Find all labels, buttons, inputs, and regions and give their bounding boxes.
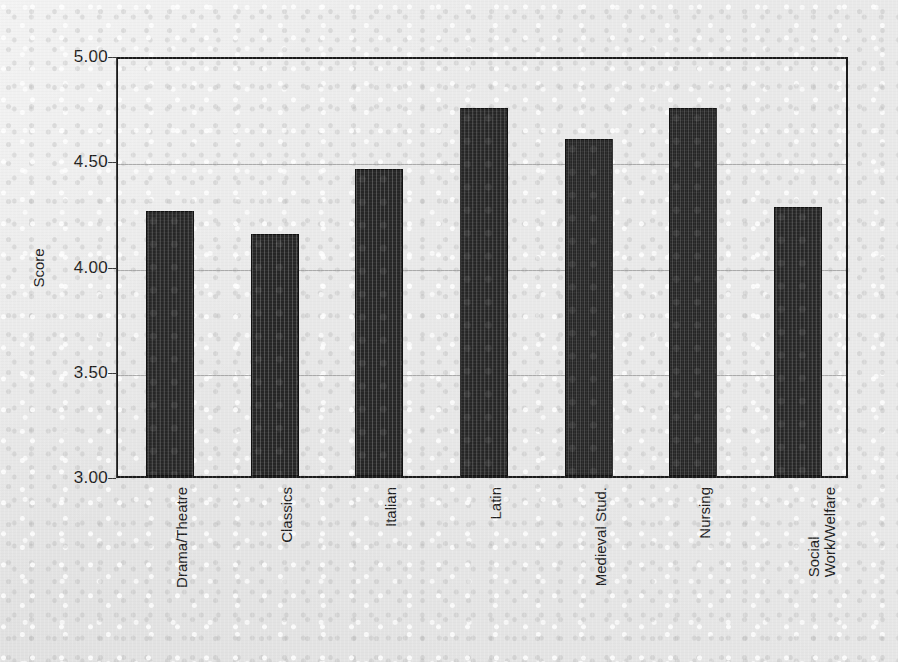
x-axis-tick-label: Medieval Stud. [593, 487, 609, 586]
y-axis-tick-mark [108, 162, 116, 163]
x-axis-tick-label: Nursing [697, 487, 713, 539]
x-axis-tick-label: Italian [383, 487, 399, 527]
y-axis-tick-label: 3.00 [18, 468, 108, 488]
bar [460, 108, 508, 476]
x-axis-tick-label-line: Classics [278, 487, 295, 543]
bar [251, 234, 299, 476]
x-axis-tick-label: Drama/Theatre [174, 487, 190, 588]
x-axis-tick-label-line: Work/Welfare [821, 487, 837, 577]
y-axis-tick-label: 4.00 [18, 258, 108, 278]
x-axis-tick-label-line: Latin [487, 487, 504, 520]
y-axis-tick-label: 4.50 [18, 152, 108, 172]
y-axis-tick-mark [108, 268, 116, 269]
x-axis-tick-label-line: Italian [382, 487, 399, 527]
y-axis-tick-label: 3.50 [18, 363, 108, 383]
bar [774, 207, 822, 476]
plot-area [116, 57, 848, 478]
bar [669, 108, 717, 476]
x-axis-tick-label-line: Drama/Theatre [173, 487, 190, 588]
x-axis-tick-label: Classics [279, 487, 295, 543]
y-axis-tick-mark [108, 373, 116, 374]
y-axis-tick-mark [108, 57, 116, 58]
bar [355, 169, 403, 476]
x-axis-tick-label: Latin [488, 487, 504, 520]
x-axis-tick-label-line: Medieval Stud. [592, 487, 609, 586]
x-axis-tick-label-line: Social [805, 536, 822, 577]
y-axis-tick-mark [108, 478, 116, 479]
bar [565, 139, 613, 476]
x-axis-tick-label-line: Nursing [696, 487, 713, 539]
scanned-chart-page: Score 3.003.504.004.505.00 Drama/Theatre… [0, 0, 898, 662]
x-axis-tick-label: SocialWork/Welfare [806, 487, 838, 577]
y-axis-tick-label: 5.00 [18, 47, 108, 67]
bar [146, 211, 194, 476]
